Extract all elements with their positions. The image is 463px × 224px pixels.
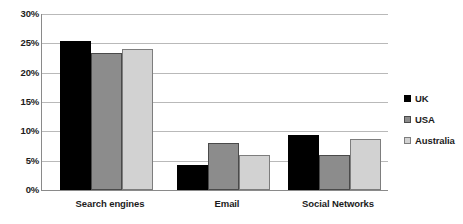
gridline-0-baseline (41, 190, 388, 191)
bar-australia-social-networks[interactable] (350, 139, 381, 190)
legend-swatch-icon-uk (404, 95, 411, 102)
y-tick-label: 5% (5, 156, 39, 166)
legend-label-usa: USA (415, 114, 435, 125)
y-tick-label: 25% (5, 38, 39, 48)
legend-item-usa[interactable]: USA (404, 109, 463, 130)
legend-label-australia: Australia (415, 135, 455, 146)
bar-chart: 30% 25% 20% 15% 10% 5% 0% (0, 0, 463, 224)
legend: UK USA Australia (404, 88, 463, 151)
y-tick-label: 30% (5, 9, 39, 19)
bar-group-social-networks (288, 14, 388, 190)
bar-groups (42, 14, 388, 190)
bar-usa-email[interactable] (208, 143, 239, 190)
y-axis-labels: 30% 25% 20% 15% 10% 5% 0% (0, 0, 39, 224)
bar-usa-social-networks[interactable] (319, 155, 350, 190)
x-axis-labels: Search engines Email Social Networks (42, 198, 388, 218)
y-tick-label: 10% (5, 126, 39, 136)
legend-swatch-icon-australia (404, 137, 411, 144)
legend-item-australia[interactable]: Australia (404, 130, 463, 151)
legend-label-uk: UK (415, 93, 429, 104)
y-tick-label: 20% (5, 68, 39, 78)
x-tick-label-email: Email (177, 198, 277, 209)
bar-uk-search-engines[interactable] (60, 41, 91, 190)
legend-item-uk[interactable]: UK (404, 88, 463, 109)
x-tick-label-social-networks: Social Networks (288, 198, 388, 209)
bar-usa-search-engines[interactable] (91, 53, 122, 190)
y-tick-label: 15% (5, 97, 39, 107)
x-tick-label-search-engines: Search engines (60, 198, 160, 209)
legend-swatch-icon-usa (404, 116, 411, 123)
bar-uk-email[interactable] (177, 165, 208, 190)
bar-australia-search-engines[interactable] (122, 49, 153, 190)
bar-uk-social-networks[interactable] (288, 135, 319, 190)
y-tick-label: 0% (5, 185, 39, 195)
bar-group-search-engines (60, 14, 160, 190)
bar-australia-email[interactable] (239, 155, 270, 190)
bar-group-email (177, 14, 277, 190)
